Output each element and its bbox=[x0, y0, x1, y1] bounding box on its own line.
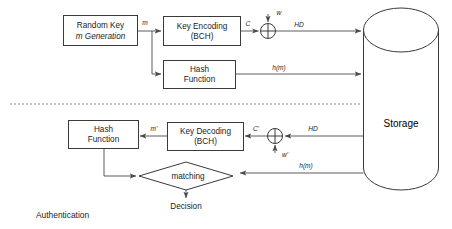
random-key-label-line2: m Generation bbox=[76, 32, 126, 41]
node-random-key-generation: Random Key m Generation bbox=[64, 16, 138, 46]
hash-enroll-label-line2: Function bbox=[184, 75, 216, 84]
edge-label-c: C bbox=[246, 20, 251, 27]
storage-label: Storage bbox=[383, 118, 418, 129]
node-hash-function-authentication: Hash Function bbox=[69, 121, 139, 149]
edge-label-hm-enroll: h(m) bbox=[272, 64, 286, 72]
key-decoding-label-line1: Key Decoding bbox=[180, 127, 231, 136]
key-decoding-label-line2: (BCH) bbox=[194, 137, 217, 146]
decision-label: Decision bbox=[170, 202, 202, 211]
edge-label-m-prime: m' bbox=[151, 125, 158, 132]
node-storage: Storage bbox=[364, 8, 439, 190]
storage-cylinder-top bbox=[364, 8, 439, 52]
node-xor-authentication bbox=[268, 129, 283, 144]
edge-label-w-prime: w' bbox=[282, 151, 289, 158]
edge-hd-enroll: HD bbox=[276, 21, 362, 32]
block-diagram-canvas: Random Key m Generation m Key Encoding (… bbox=[0, 0, 452, 229]
authentication-phase-caption: Authentication bbox=[36, 210, 89, 220]
edge-matching-to-decision: Decision bbox=[170, 190, 202, 211]
hash-enroll-label-line1: Hash bbox=[190, 65, 210, 74]
matching-label: matching bbox=[171, 172, 205, 181]
edge-c-prime: C' bbox=[245, 125, 268, 136]
hash-auth-label-line2: Function bbox=[88, 135, 120, 144]
key-encoding-label-line1: Key Encoding bbox=[177, 22, 228, 31]
edge-label-hd-auth: HD bbox=[308, 125, 318, 132]
diagram-svg: Random Key m Generation m Key Encoding (… bbox=[0, 0, 452, 229]
edge-hd-auth: HD bbox=[285, 125, 364, 136]
storage-cylinder-body bbox=[364, 30, 439, 190]
node-key-encoding: Key Encoding (BCH) bbox=[164, 17, 241, 46]
edge-label-hm-auth: h(m) bbox=[299, 162, 313, 170]
edge-c: C bbox=[241, 20, 259, 31]
key-encoding-label-line2: (BCH) bbox=[191, 32, 214, 41]
edge-label-hd-enroll: HD bbox=[294, 21, 304, 28]
edge-m-prime: m' bbox=[140, 125, 168, 136]
edge-m-branch: m bbox=[138, 19, 162, 74]
edge-hm-enroll: h(m) bbox=[236, 64, 362, 75]
edge-hash-to-matching-line bbox=[104, 149, 136, 177]
edge-hash-to-matching bbox=[104, 149, 136, 177]
edge-hm-auth: h(m) bbox=[240, 162, 364, 173]
edge-w-input: w bbox=[268, 9, 283, 22]
node-matching: matching bbox=[139, 162, 233, 190]
edge-label-w: w bbox=[277, 9, 283, 16]
edge-label-c-prime: C' bbox=[253, 125, 260, 132]
node-xor-enrollment bbox=[261, 24, 276, 39]
hash-auth-label-line1: Hash bbox=[94, 125, 114, 134]
edge-w-prime-input: w' bbox=[275, 145, 289, 158]
random-key-box bbox=[64, 16, 138, 46]
node-key-decoding: Key Decoding (BCH) bbox=[168, 123, 244, 151]
edge-label-m: m bbox=[142, 19, 148, 26]
random-key-label-line1: Random Key bbox=[77, 21, 125, 30]
node-hash-function-enrollment: Hash Function bbox=[164, 61, 236, 89]
